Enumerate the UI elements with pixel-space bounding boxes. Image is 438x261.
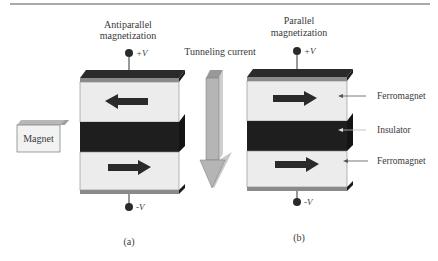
panel-b: Parallel magnetization +V -V (b) bbox=[247, 15, 353, 244]
label-top-ferromagnet: Ferromagnet bbox=[377, 91, 426, 101]
panel-a: Antiparallel magnetization +V -V (a) bbox=[80, 19, 185, 248]
panel-b-top-electrode bbox=[247, 77, 347, 81]
magnet-box: Magnet bbox=[17, 120, 69, 152]
panel-b-bottom-terminal-dot bbox=[293, 198, 301, 206]
panel-a-top-terminal-label: +V bbox=[136, 48, 149, 58]
panel-b-top-electrode-face bbox=[247, 69, 353, 77]
panel-b-insulator bbox=[247, 121, 347, 151]
panel-a-top-electrode-face bbox=[80, 70, 185, 78]
panel-a-bottom-electrode bbox=[80, 190, 179, 194]
panel-a-bottom-terminal-dot bbox=[125, 203, 133, 211]
panel-a-insulator bbox=[80, 122, 179, 152]
magnet-label: Magnet bbox=[23, 133, 54, 144]
panel-b-bottom-terminal-label: -V bbox=[304, 197, 314, 207]
panel-b-title-line1: Parallel bbox=[284, 15, 315, 26]
label-bottom-ferromagnet: Ferromagnet bbox=[377, 156, 426, 166]
panel-a-top-terminal-dot bbox=[125, 49, 133, 57]
panel-a-title-line1: Antiparallel bbox=[104, 19, 152, 30]
panel-a-title-line2: magnetization bbox=[100, 30, 157, 41]
tunneling-current: Tunneling current bbox=[184, 46, 256, 188]
label-insulator: Insulator bbox=[377, 125, 412, 135]
panel-b-top-terminal-label: +V bbox=[304, 46, 317, 56]
panel-a-top-electrode bbox=[80, 78, 179, 82]
panel-b-title-line2: magnetization bbox=[271, 27, 328, 38]
tunneling-current-arrow-icon bbox=[206, 78, 219, 160]
panel-a-bottom-terminal-label: -V bbox=[136, 202, 146, 212]
panel-b-caption: (b) bbox=[293, 232, 305, 244]
mtj-diagram: Antiparallel magnetization +V -V (a) bbox=[0, 0, 438, 261]
panel-a-caption: (a) bbox=[123, 236, 134, 248]
panel-b-bottom-ferromagnet bbox=[247, 151, 347, 187]
panel-b-top-terminal-dot bbox=[293, 47, 301, 55]
panel-b-bottom-electrode bbox=[247, 187, 347, 191]
tunneling-current-label: Tunneling current bbox=[184, 46, 256, 57]
